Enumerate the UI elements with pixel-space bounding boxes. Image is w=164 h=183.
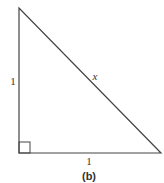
triangle-outline [19,8,161,153]
right-angle-marker [19,142,30,153]
figure-caption: (b) [82,171,96,182]
right-triangle-figure: 1 x 1 (b) [0,0,164,183]
bottom-side-label: 1 [86,156,92,167]
left-side-label: 1 [10,76,16,87]
triangle-drawing [0,0,164,183]
hypotenuse-label: x [93,71,98,82]
